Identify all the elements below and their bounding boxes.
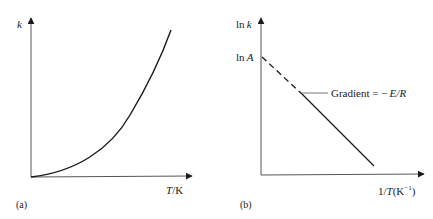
panel-b-y-prefix: ln (236, 18, 245, 30)
panel-a-curve (31, 30, 171, 177)
panel-b-line (302, 94, 374, 166)
panel-a-x-unit: /K (172, 184, 183, 196)
panel-a-y-label: k (17, 19, 22, 30)
panel-b-y-label: ln k (236, 19, 252, 30)
panel-a-caption: (a) (16, 200, 27, 210)
intercept-var: A (247, 51, 254, 63)
panel-b-y-var: k (247, 18, 252, 30)
intercept-label: ln A (236, 52, 254, 63)
panel-b-x-unit: (K (393, 185, 405, 197)
intercept-prefix: ln (236, 51, 245, 63)
panel-b-x-exp: −1 (404, 184, 411, 192)
panel-a-axes (31, 18, 192, 177)
panel-b-x-prefix: 1/ (378, 185, 387, 197)
panel-b-extrapolation-dashed (262, 57, 302, 94)
panel-b-x-close: ) (412, 185, 416, 197)
figure-canvas (0, 0, 433, 219)
gradient-var: E/R (390, 87, 407, 99)
gradient-annotation: Gradient = − E/R (331, 88, 406, 99)
panel-a-x-label: T/K (166, 185, 183, 196)
panel-b-x-axis (261, 174, 424, 175)
panel-b-caption: (b) (240, 200, 252, 210)
panel-b-x-label: 1/T(K−1) (378, 185, 415, 197)
gradient-prefix: Gradient = − (331, 87, 387, 99)
panel-a-x-axis (31, 176, 192, 177)
